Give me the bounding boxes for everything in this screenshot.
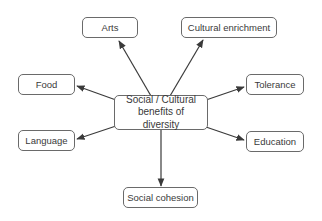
node-language: Language (18, 130, 75, 151)
node-tolerance-label: Tolerance (254, 79, 295, 91)
diversity-benefits-diagram: Arts Cultural enrichment Food Tolerance … (0, 0, 322, 221)
node-language-label: Language (25, 135, 67, 147)
node-food: Food (18, 74, 75, 95)
center-label-line2: benefits of diversity (119, 106, 203, 131)
node-education: Education (246, 131, 304, 152)
node-education-label: Education (254, 136, 296, 148)
center-label-line1: Social / Cultural (126, 94, 196, 107)
node-cultural-enrichment: Cultural enrichment (181, 17, 277, 38)
arrow-to-food (77, 86, 116, 100)
node-arts-label: Arts (102, 22, 119, 34)
arrow-to-cultural-enrichment (170, 40, 203, 96)
arrow-to-tolerance (206, 87, 244, 100)
node-arts: Arts (82, 17, 138, 38)
node-social-cohesion-label: Social cohesion (127, 192, 194, 204)
arrow-to-language (77, 126, 116, 139)
arrow-to-arts (119, 41, 151, 96)
node-cultural-enrichment-label: Cultural enrichment (188, 22, 270, 34)
node-center: Social / Cultural benefits of diversity (114, 95, 208, 130)
arrow-to-education (206, 127, 244, 140)
node-food-label: Food (36, 79, 58, 91)
node-tolerance: Tolerance (246, 74, 304, 95)
node-social-cohesion: Social cohesion (123, 187, 198, 208)
